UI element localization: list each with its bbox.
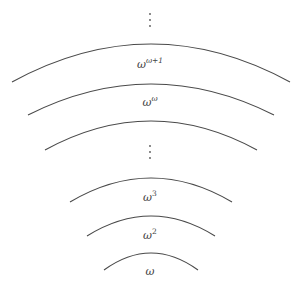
- label-omega-omega: ωω: [142, 96, 157, 109]
- ellipsis-dot: [149, 145, 151, 147]
- ellipsis-dot: [149, 25, 151, 27]
- label-omega-cubed: ω3: [143, 191, 157, 204]
- ellipsis-dot: [149, 151, 151, 153]
- label-base: ω: [143, 229, 152, 242]
- ordinal-arc-diagram: ωω+1 ωω ω3 ω2 ω: [0, 0, 299, 288]
- label-exponent: 2: [152, 227, 157, 236]
- ellipsis-dot: [149, 157, 151, 159]
- label-exponent: ω: [151, 94, 157, 103]
- label-omega-squared: ω2: [143, 229, 157, 242]
- label-exponent: ω+1: [146, 56, 163, 65]
- label-base: ω: [142, 96, 151, 109]
- vertical-ellipsis-top-vdots: [149, 13, 151, 27]
- ellipsis-dot: [149, 19, 151, 21]
- label-exponent: 3: [152, 189, 157, 198]
- label-omega: ω: [146, 266, 155, 277]
- label-omega-omega-plus-1: ωω+1: [137, 58, 163, 71]
- label-base: ω: [146, 265, 155, 278]
- vertical-ellipsis-middle-vdots: [149, 145, 151, 159]
- ellipsis-dot: [149, 13, 151, 15]
- arcs-canvas: [0, 0, 299, 288]
- label-base: ω: [143, 191, 152, 204]
- label-base: ω: [137, 58, 146, 71]
- arc-unlabeled: [45, 121, 257, 150]
